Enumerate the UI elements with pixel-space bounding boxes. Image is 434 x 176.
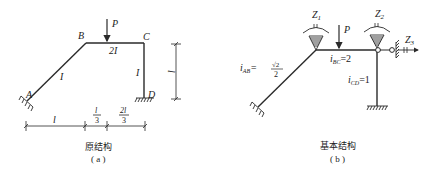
z2-label: Z2: [375, 8, 385, 21]
node-label-d: D: [147, 89, 156, 100]
fixed-support-a-b-icon: [250, 102, 264, 117]
stiffness-bc-label: iBC=2: [330, 53, 351, 65]
caption-b: 基本结构: [320, 140, 356, 151]
dim-bottom-2-num: l: [95, 106, 98, 115]
caption-a: 原结构: [85, 141, 112, 152]
sublabel-b: ( b ): [330, 154, 345, 164]
bottom-dimension: [24, 115, 147, 131]
structure-diagram: A B C D P 2I I I l l l 3 2l 3 原结构 ( a ): [0, 0, 434, 176]
node-label-a: A: [25, 89, 33, 100]
node-label-c: C: [143, 31, 150, 42]
member-label-ab: I: [59, 71, 64, 82]
hinge-link-icon: [390, 48, 395, 53]
z2-rotation-arc-icon: [364, 27, 390, 33]
load-label-p: P: [111, 18, 118, 29]
z3-label: Z3: [405, 34, 415, 47]
stiffness-cd-label: iCD=1: [348, 74, 370, 86]
dim-vertical-label: l: [166, 70, 177, 73]
figure-a: [19, 19, 181, 131]
figure-a-labels: A B C D P 2I I I l l l 3 2l 3 原结构 ( a ): [25, 18, 177, 164]
fixed-support-d-b-icon: [367, 106, 388, 110]
stiffness-ab-den: 2: [274, 70, 278, 79]
rotation-restraint-c-icon: [370, 35, 384, 48]
link-support-wall-icon: [396, 40, 399, 58]
stiffness-ab-label: iAB=: [240, 62, 257, 74]
member-ab: [27, 43, 86, 101]
member-ab-b: [258, 50, 316, 107]
rotation-restraint-b-icon: [309, 36, 323, 50]
dim-bottom-3-num: 2l: [120, 106, 127, 115]
node-label-b: B: [78, 30, 84, 41]
member-label-cd: I: [135, 67, 140, 78]
z1-label: Z1: [312, 9, 321, 22]
z1-rotation-arc-icon: [303, 28, 329, 34]
dim-bottom-2-den: 3: [95, 116, 99, 125]
sublabel-a: ( a ): [91, 154, 106, 164]
member-label-bc: 2I: [109, 45, 118, 56]
hinge-c-icon: [376, 48, 381, 53]
dim-bottom-3-den: 3: [122, 116, 126, 125]
stiffness-ab-num: √2: [272, 61, 280, 69]
dim-bottom-1: l: [53, 114, 56, 125]
load-label-p-b: P: [343, 24, 350, 35]
